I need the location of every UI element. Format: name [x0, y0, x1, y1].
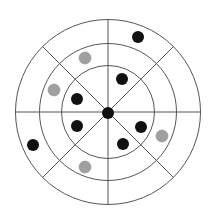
gray-dot: [79, 52, 91, 64]
black-dot: [71, 93, 83, 105]
black-dot: [116, 73, 128, 85]
black-dot: [71, 120, 83, 132]
black-dot: [132, 31, 144, 43]
target-diagram: [0, 0, 209, 223]
gray-dot: [156, 130, 168, 142]
black-dot: [117, 138, 129, 150]
center-dot: [102, 107, 114, 119]
gray-dot: [79, 161, 91, 173]
black-dot: [27, 139, 39, 151]
gray-dot: [48, 84, 60, 96]
black-dot: [135, 121, 147, 133]
